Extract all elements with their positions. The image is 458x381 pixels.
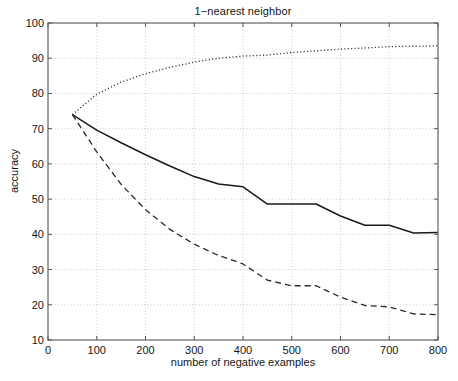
x-tick-label: 400 [223,344,263,356]
x-tick-label: 500 [272,344,312,356]
y-tick-label: 30 [10,264,44,276]
x-tick-label: 800 [418,344,458,356]
y-tick-label: 60 [10,158,44,170]
y-tick-label: 50 [10,193,44,205]
y-tick-label: 80 [10,87,44,99]
y-tick-labels: 102030405060708090100 [6,0,44,381]
y-tick-label: 40 [10,228,44,240]
series-dotted-upper [72,46,438,115]
chart-title: 1−nearest neighbor [48,5,438,17]
y-tick-label: 100 [10,17,44,29]
series-solid-middle [72,115,438,233]
y-tick-label: 70 [10,123,44,135]
x-tick-label: 0 [28,344,68,356]
x-tick-label: 300 [174,344,214,356]
x-tick-label: 600 [321,344,361,356]
x-tick-label: 200 [126,344,166,356]
series-dashed-lower [72,115,438,315]
grid-lines [48,23,438,340]
y-tick-label: 20 [10,299,44,311]
x-tick-label: 700 [369,344,409,356]
chart-figure: 1−nearest neighbor accuracy number of ne… [0,0,458,381]
x-tick-label: 100 [77,344,117,356]
y-tick-label: 90 [10,52,44,64]
plot-canvas [0,0,458,381]
x-axis-label: number of negative examples [48,356,438,368]
